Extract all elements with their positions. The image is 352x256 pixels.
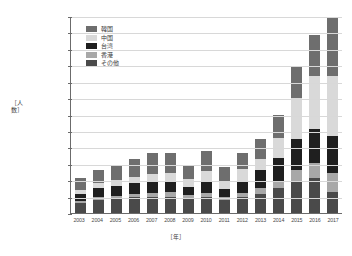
bar-segment [201,182,212,192]
y-axis-tick [68,66,72,67]
bar-segment [165,197,176,213]
x-axis-tick-label: 2007 [143,217,161,223]
legend-item[interactable]: その他 [86,60,119,66]
stacked-bar[interactable] [147,153,158,213]
grid-line [71,83,342,84]
bar-segment [327,76,338,136]
x-axis-tick-label: 2015 [288,217,306,223]
y-axis-tick [68,17,72,18]
stacked-bar[interactable] [237,153,248,213]
bar-segment [291,98,302,139]
bar-segment [111,166,122,180]
bar-segment [327,192,338,213]
stacked-bar[interactable] [309,35,320,213]
y-axis-tick [68,116,72,117]
y-axis-tick [68,83,72,84]
bar-segment [129,177,140,184]
legend-swatch-icon [86,52,97,58]
bar-segment [237,181,248,193]
bar-segment [219,167,230,181]
x-axis-tick-label: 2012 [233,217,251,223]
grid-line [71,66,342,67]
legend-swatch-icon [86,26,97,32]
bar-segment [237,153,248,170]
legend-item[interactable]: 香港 [86,52,119,58]
x-axis-tick-label: 2004 [88,217,106,223]
y-axis-tick [68,33,72,34]
x-axis-labels: 2003200420052006200720082009201020112012… [70,217,342,223]
bar-segment [309,129,320,163]
bar-segment [129,159,140,176]
bar-segment [183,166,194,179]
bar-segment [147,197,158,213]
bar-segment [147,182,158,193]
grid-line [71,132,342,133]
stacked-bar[interactable] [165,153,176,213]
bar-segment [219,189,230,197]
bar-segment [309,35,320,77]
bar-segment [165,181,176,192]
x-axis-title: ［年］ [0,232,352,241]
grid-line [71,99,342,100]
stacked-bar[interactable] [255,139,266,213]
legend-swatch-icon [86,43,97,49]
stacked-bar[interactable] [111,166,122,213]
bar-segment [111,199,122,213]
bar-segment [255,170,266,188]
stacked-bar[interactable] [219,167,230,213]
legend-label: 香港 [101,52,113,58]
grid-line [71,116,342,117]
y-axis-tick [68,132,72,133]
bar-segment [309,76,320,128]
bar-segment [93,188,104,197]
stacked-bar[interactable] [75,178,86,213]
x-axis-tick-label: 2010 [197,217,215,223]
bar-segment [201,151,212,171]
bar-segment [165,173,176,181]
bar-segment [147,153,158,174]
y-axis-tick [68,214,72,215]
stacked-bar[interactable] [129,159,140,213]
bar-segment [273,158,284,181]
x-axis-tick-label: 2013 [251,217,269,223]
legend-swatch-icon [86,35,97,41]
y-axis-tick [68,165,72,166]
y-axis-tick [68,99,72,100]
grid-line [71,148,342,149]
y-axis-tick [68,181,72,182]
bar-segment [111,186,122,196]
legend-label: その他 [101,60,119,66]
x-axis-tick-label: 2003 [70,217,88,223]
bar-segment [291,170,302,183]
bar-segment [93,200,104,213]
bar-segment [183,199,194,213]
x-axis-tick-label: 2006 [124,217,142,223]
x-axis-tick-label: 2005 [106,217,124,223]
stacked-bar[interactable] [93,170,104,213]
bar-segment [183,187,194,195]
bar-segment [273,115,284,138]
legend-label: 韓国 [101,26,113,32]
bar-segment [327,136,338,173]
bar-segment [129,183,140,194]
stacked-bar[interactable] [291,66,302,214]
y-axis-tick [68,50,72,51]
bar-segment [309,178,320,213]
x-axis-tick-label: 2009 [179,217,197,223]
grid-line [71,165,342,166]
x-axis-tick-label: 2008 [161,217,179,223]
y-axis-tick [68,148,72,149]
legend-label: 台湾 [101,43,113,49]
legend-item[interactable]: 中国 [86,35,119,41]
x-axis-tick-label: 2014 [270,217,288,223]
chart-legend: 韓国中国台湾香港その他 [86,26,119,66]
bar-segment [201,197,212,213]
bar-segment [75,203,86,213]
grid-line [71,181,342,182]
legend-item[interactable]: 台湾 [86,43,119,49]
legend-item[interactable]: 韓国 [86,26,119,32]
stacked-bar-chart: ［人数］ 02,000,0004,000,0006,000,0008,000,0… [0,0,352,256]
stacked-bar[interactable] [183,166,194,213]
bar-segment [183,179,194,187]
bar-segment [219,200,230,213]
